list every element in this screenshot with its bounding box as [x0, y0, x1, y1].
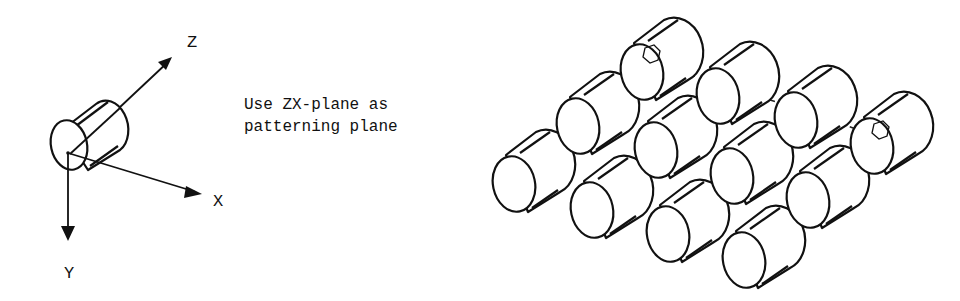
y-axis-label: Y [64, 264, 74, 283]
diagram-canvas: Z X Y Use ZX-plane as patterning plane [0, 0, 960, 301]
cylinder-r1-c3 [770, 66, 858, 152]
z-arrowhead-icon [158, 57, 172, 70]
x-axis-label: X [213, 192, 223, 211]
cylinder-r1-c1 [616, 18, 704, 104]
note-line-2: patterning plane [244, 118, 398, 136]
note-line-1: Use ZX-plane as [244, 96, 388, 114]
cylinder-pattern [488, 18, 934, 292]
cylinder-r1-c2 [692, 42, 780, 128]
pattern-note: Use ZX-plane as patterning plane [244, 96, 398, 136]
y-arrowhead-icon [61, 226, 75, 241]
cylinder-r3-c2 [566, 156, 654, 242]
x-axis [68, 153, 196, 192]
x-arrowhead-icon [184, 186, 202, 198]
z-axis-label: Z [187, 33, 197, 52]
cylinder-r3-c4 [718, 206, 806, 292]
coordinate-system: Z X Y [46, 33, 223, 283]
cylinder-r1-c4 [846, 92, 934, 178]
